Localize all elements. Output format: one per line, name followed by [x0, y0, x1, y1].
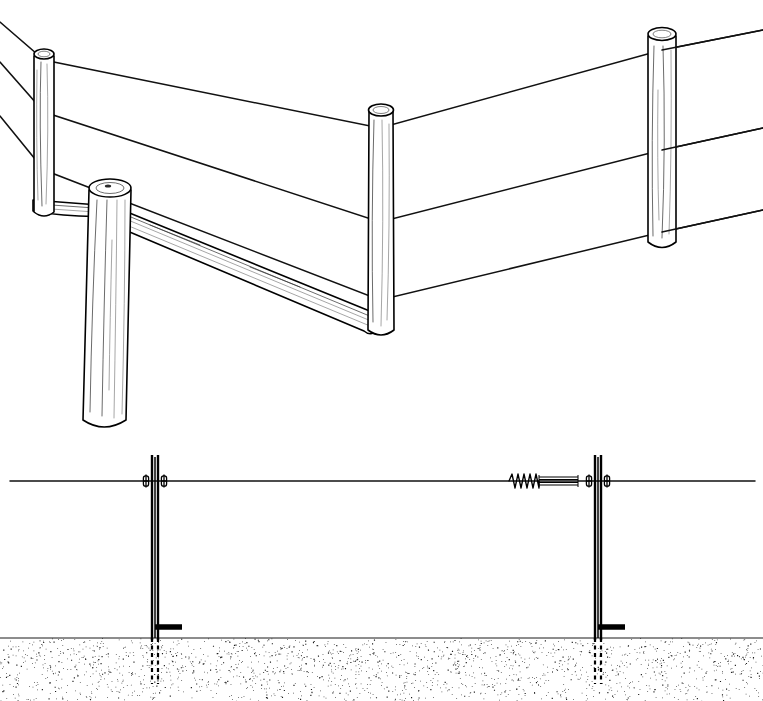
wire-clip-left [143, 474, 148, 487]
line-post-right [648, 28, 676, 248]
figure-root: Barbed wire fence construction details P… [0, 0, 763, 701]
wire-clip-right [161, 474, 166, 487]
wire-clip-left [586, 474, 591, 487]
anchor-post [34, 49, 54, 216]
wire-clip-right [604, 474, 609, 487]
fence-diagram-svg [0, 0, 763, 701]
corner-post [83, 179, 131, 427]
line-post-middle [368, 104, 394, 335]
